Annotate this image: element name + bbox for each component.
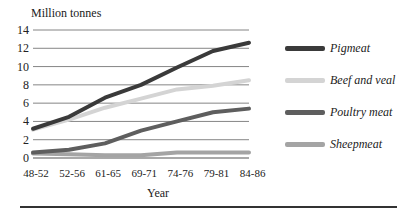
x-tick-label: 61-65 xyxy=(95,167,121,179)
legend-item-pigmeat: Pigmeat xyxy=(285,32,395,64)
y-tick-label: 2 xyxy=(23,133,29,147)
legend-swatch-beef-and-veal xyxy=(285,78,325,83)
legend-item-sheepmeat: Sheepmeat xyxy=(285,128,395,160)
x-tick-label: 48-52 xyxy=(23,167,49,179)
y-tick-label: 10 xyxy=(17,60,29,74)
x-tick-label: 74-76 xyxy=(168,167,194,179)
series-line-beef-and-veal xyxy=(33,80,249,129)
legend: Pigmeat Beef and veal Poultry meat Sheep… xyxy=(285,32,395,160)
x-tick-label: 84-86 xyxy=(240,167,266,179)
x-tick-label: 52-56 xyxy=(59,167,85,179)
series-line-poultry-meat xyxy=(33,109,249,153)
x-axis-ticks: 48-5252-5661-6569-7174-7679-8184-86 xyxy=(23,167,266,179)
y-tick-label: 12 xyxy=(17,41,29,55)
legend-swatch-pigmeat xyxy=(285,46,325,51)
x-tick-label: 69-71 xyxy=(131,167,157,179)
legend-label: Poultry meat xyxy=(330,105,392,120)
y-tick-label: 6 xyxy=(23,96,29,110)
bottom-rule-divider xyxy=(20,206,397,208)
x-tick-label: 79-81 xyxy=(204,167,230,179)
series-lines xyxy=(33,43,249,155)
legend-label: Beef and veal xyxy=(330,73,395,88)
series-line-sheepmeat xyxy=(33,153,249,156)
y-tick-label: 4 xyxy=(23,114,29,128)
legend-item-beef-and-veal: Beef and veal xyxy=(285,64,395,96)
legend-swatch-sheepmeat xyxy=(285,142,325,147)
y-tick-label: 14 xyxy=(17,23,29,37)
legend-label: Sheepmeat xyxy=(330,137,382,152)
y-tick-label: 8 xyxy=(23,78,29,92)
legend-label: Pigmeat xyxy=(330,41,370,56)
x-axis-label: Year xyxy=(128,186,188,201)
y-tick-label: 0 xyxy=(23,151,29,165)
legend-item-poultry-meat: Poultry meat xyxy=(285,96,395,128)
y-axis-ticks: 02468101214 xyxy=(17,23,29,165)
legend-swatch-poultry-meat xyxy=(285,110,325,115)
y-axis-label: Million tonnes xyxy=(31,6,101,21)
